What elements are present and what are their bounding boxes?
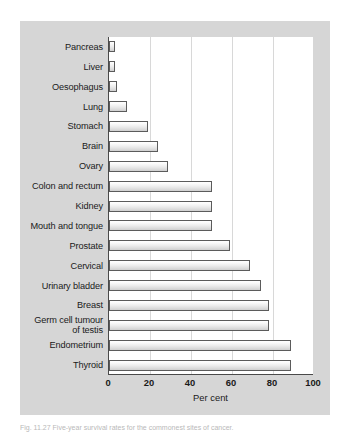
x-axis-tick-label: 60 [226, 377, 236, 388]
y-axis-label: Oesophagus [52, 82, 103, 92]
bar-row [109, 240, 313, 252]
x-axis-tick-label: 80 [267, 377, 277, 388]
bar [109, 201, 212, 212]
bar-row [109, 200, 313, 212]
y-axis-label: Breast [77, 300, 103, 310]
y-axis-label: Cervical [71, 261, 103, 271]
figure-caption: Fig. 11.27 Five-year survival rates for … [20, 424, 330, 438]
bar [109, 360, 291, 371]
y-axis-label: Urinary bladder [42, 281, 103, 291]
y-axis-label: Stomach [67, 121, 103, 131]
figure-root: PancreasLiverOesophagusLungStomachBrainO… [0, 0, 345, 439]
bar-row [109, 339, 313, 351]
y-axis-label: Ovary [79, 161, 103, 171]
bar-row [109, 299, 313, 311]
bar-row [109, 160, 313, 172]
bar-row [109, 101, 313, 113]
bar [109, 280, 261, 291]
bar-row [109, 280, 313, 292]
bar-row [109, 319, 313, 331]
bar-row [109, 120, 313, 132]
figure-panel: PancreasLiverOesophagusLungStomachBrainO… [20, 21, 330, 415]
bar [109, 141, 158, 152]
y-axis-label: Brain [82, 141, 103, 151]
y-axis-label: Lung [83, 102, 103, 112]
y-axis-label: Colon and rectum [32, 181, 103, 191]
y-axis-label: Mouth and tongue [31, 221, 103, 231]
bar-rows [109, 37, 313, 374]
bar [109, 240, 230, 251]
bar-row [109, 41, 313, 53]
y-axis-labels: PancreasLiverOesophagusLungStomachBrainO… [20, 37, 106, 375]
y-axis-label: Prostate [70, 241, 103, 251]
bar [109, 61, 115, 72]
bar-row [109, 81, 313, 93]
y-axis-label: Endometrium [49, 340, 103, 350]
bar [109, 340, 291, 351]
bar-row [109, 61, 313, 73]
bar [109, 260, 250, 271]
bar [109, 220, 212, 231]
bar-row [109, 180, 313, 192]
y-axis-label: Liver [84, 62, 103, 72]
bar [109, 81, 117, 92]
bar-row [109, 260, 313, 272]
x-axis-tick-label: 100 [305, 377, 321, 388]
bar [109, 101, 127, 112]
y-axis-label: Thyroid [73, 360, 103, 370]
bar [109, 181, 212, 192]
bar [109, 41, 115, 52]
bar-row [109, 140, 313, 152]
bar-row [109, 220, 313, 232]
bar [109, 121, 148, 132]
x-axis-title: Per cent [108, 392, 313, 403]
x-axis-tick-label: 40 [185, 377, 195, 388]
y-axis-label: Kidney [76, 201, 104, 211]
x-axis-tick-label: 20 [144, 377, 154, 388]
x-axis-tick-label: 0 [105, 377, 110, 388]
bar-row [109, 359, 313, 371]
bar [109, 161, 168, 172]
plot-area [108, 37, 313, 375]
y-axis-label: Pancreas [65, 42, 103, 52]
x-axis-ticks: 020406080100 [108, 377, 313, 391]
y-axis-label: Germ cell tumour of testis [34, 315, 103, 335]
bar [109, 320, 269, 331]
bar [109, 300, 269, 311]
